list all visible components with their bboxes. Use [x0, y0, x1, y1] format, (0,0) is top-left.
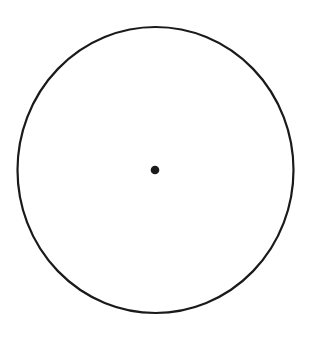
center-point: [151, 166, 160, 175]
diagram-canvas: [0, 0, 317, 343]
